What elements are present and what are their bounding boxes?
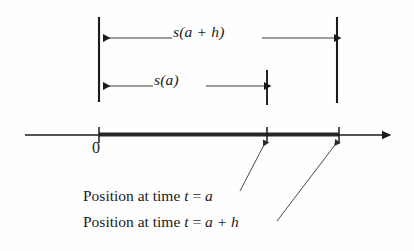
callout-value: a (205, 187, 213, 204)
callout-position-at-time-a-plus-h: Position at time t = a + h (83, 214, 239, 230)
dimension-label-s-a: s(a) (154, 72, 179, 88)
callout-position-at-time-a: Position at time t = a (83, 188, 213, 204)
callout-equals: = (189, 187, 206, 204)
label-text: s(a + h) (173, 23, 225, 40)
tick-label-zero: 0 (92, 140, 100, 156)
callout-prefix: Position at time (83, 187, 184, 204)
callout-leaders (240, 141, 338, 221)
callout-equals: = (189, 213, 206, 230)
number-line (25, 127, 382, 143)
label-text: s(a) (154, 71, 179, 88)
dimension-label-s-a-plus-h: s(a + h) (173, 24, 225, 40)
callout-prefix: Position at time (83, 213, 184, 230)
callout-value: a + h (205, 213, 239, 230)
tick-label-text: 0 (92, 139, 100, 156)
leader-position-a (240, 141, 266, 191)
leader-position-a-plus-h (277, 141, 338, 221)
position-number-line-figure: s(a + h) s(a) 0 Position at time t = a P… (0, 0, 414, 251)
